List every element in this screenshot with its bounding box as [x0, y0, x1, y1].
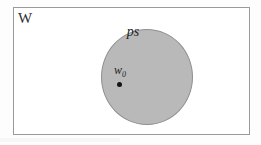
set-diagram-figure: W ps w0	[0, 0, 261, 145]
center-point-label: w0	[105, 63, 135, 82]
center-point-marker	[117, 82, 122, 87]
background-texture	[0, 138, 120, 142]
universe-label: W	[18, 10, 32, 26]
center-label-subscript: 0	[122, 70, 126, 79]
disk-label: ps	[116, 24, 150, 39]
center-label-base: w	[114, 63, 122, 77]
